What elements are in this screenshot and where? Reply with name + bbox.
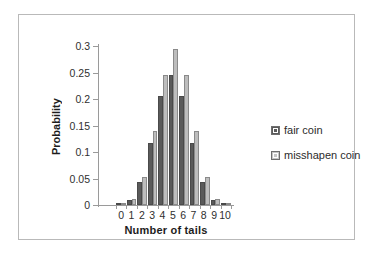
y-axis-tick-label: 0.3 [62,41,90,52]
x-axis-tick-label: 7 [188,210,198,222]
bar-misshapen-coin-8 [205,177,210,205]
bar-group [126,46,136,205]
legend-item-fair-coin[interactable]: fair coin [271,125,371,136]
x-axis-tick-label: 2 [137,210,147,222]
y-axis-tick-label: 0.2 [62,94,90,105]
y-axis-tick-label: 0.25 [62,67,90,78]
x-axis-tick-mark [137,205,138,209]
bar-group [137,46,147,205]
x-axis-tick-label: 4 [157,210,167,222]
bar-group [210,46,220,205]
bar-misshapen-coin-3 [153,131,158,205]
legend-item-misshapen-coin[interactable]: misshapen coin [271,150,371,161]
x-axis-tick-label: 3 [147,210,157,222]
chart-frame: Probability 00.050.10.150.20.250.3 01234… [18,14,355,240]
y-axis-line [98,44,99,207]
x-axis-tick-label: 8 [199,210,209,222]
chart-legend: fair coinmisshapen coin [271,125,371,175]
bar-group [189,46,199,205]
x-axis-tick-mark [126,205,127,209]
bar-misshapen-coin-9 [215,199,220,205]
bar-group [168,46,178,205]
bar-misshapen-coin-2 [142,177,147,205]
bar-group [158,46,168,205]
bar-group [116,46,126,205]
bar-misshapen-coin-0 [121,203,126,205]
x-axis-tick-label: 10 [219,210,231,222]
bar-misshapen-coin-1 [132,199,137,205]
legend-swatch-icon [271,151,280,160]
x-axis-tick-label: 1 [126,210,136,222]
bar-group [221,46,231,205]
y-axis-tick-label: 0.05 [62,173,90,184]
x-axis-tick-mark [147,205,148,209]
y-axis-tick-label: 0 [62,200,90,211]
legend-label: misshapen coin [284,150,360,161]
x-axis-tick-label: 0 [116,210,126,222]
x-axis-tick-label: 5 [168,210,178,222]
y-axis-tick-labels: 00.050.10.150.20.250.3 [59,15,90,239]
bar-misshapen-coin-5 [173,49,178,205]
bar-series-container [116,46,231,205]
y-axis-tick-label: 0.1 [62,147,90,158]
bar-group [200,46,210,205]
x-axis-tick-label: 9 [209,210,219,222]
legend-swatch-icon [271,126,280,135]
x-axis-tick-mark [116,205,117,209]
bar-misshapen-coin-6 [184,75,189,205]
x-axis-title: Number of tails [98,224,234,236]
x-axis-tick-mark [158,205,159,209]
x-axis-tick-mark [231,205,232,209]
bar-misshapen-coin-10 [226,203,231,205]
bar-group [147,46,157,205]
x-axis-tick-label: 6 [178,210,188,222]
legend-label: fair coin [284,125,323,136]
bar-misshapen-coin-4 [163,75,168,205]
bar-misshapen-coin-7 [194,131,199,205]
x-axis-line [98,205,234,206]
y-axis-tick-label: 0.15 [62,120,90,131]
bar-group [179,46,189,205]
x-axis-tick-labels: 012345678910 [116,210,231,222]
